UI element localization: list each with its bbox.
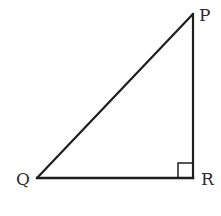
vertex-label-p: P: [199, 5, 210, 25]
triangle-figure: P Q R: [0, 0, 221, 216]
side-pq: [37, 14, 193, 178]
vertex-label-r: R: [201, 169, 215, 189]
triangle-diagram: P Q R: [0, 0, 221, 216]
vertex-label-q: Q: [16, 169, 30, 189]
right-angle-marker-icon: [178, 163, 193, 178]
